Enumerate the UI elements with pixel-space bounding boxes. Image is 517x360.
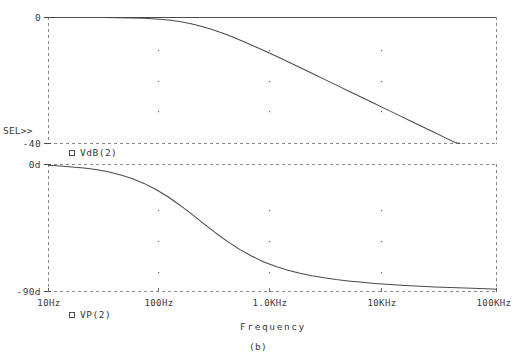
legend-phase[interactable]: VP(2) (69, 310, 111, 320)
xaxis-title: Frequency (213, 322, 333, 332)
phase-panel (44, 164, 497, 292)
square-marker-icon (69, 150, 75, 156)
magnitude-ytick-label-bottom: -40 (8, 139, 41, 149)
legend-magnitude-label: VdB(2) (80, 148, 117, 158)
xtick-label-1khz: 1.0KHz (239, 298, 301, 308)
xtick-label-100khz: 100KHz (463, 298, 517, 308)
bode-plot-figure: 0 SEL>> -40 VdB(2) 0d -90d 10Hz 100Hz 1.… (0, 0, 517, 360)
xtick-label-10khz: 10KHz (351, 298, 413, 308)
magnitude-ytick-label-top: 0 (8, 13, 41, 23)
magnitude-grid-dots (158, 50, 382, 112)
magnitude-panel (44, 17, 497, 144)
magnitude-trace (48, 18, 460, 144)
figure-caption: (b) (228, 342, 288, 352)
legend-phase-label: VP(2) (80, 310, 111, 320)
phase-ytick-label-bottom: -90d (2, 287, 41, 297)
legend-magnitude[interactable]: VdB(2) (69, 148, 117, 158)
xtick-label-100hz: 100Hz (128, 298, 190, 308)
xtick-label-10hz: 10Hz (18, 298, 80, 308)
phase-ytick-label-top: 0d (8, 160, 41, 170)
phase-trace (48, 165, 497, 289)
sel-marker[interactable]: SEL>> (3, 126, 33, 136)
square-marker-icon (69, 312, 75, 318)
